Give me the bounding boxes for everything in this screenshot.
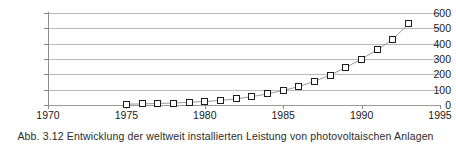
data-point-marker — [280, 87, 287, 94]
data-point-marker — [295, 83, 302, 90]
data-point-marker — [170, 100, 177, 107]
data-point-marker — [123, 101, 130, 108]
data-point-marker — [264, 90, 271, 97]
data-point-marker — [405, 20, 412, 27]
data-point-marker — [358, 56, 365, 63]
figure-caption: Abb. 3.12 Entwicklung der weltweit insta… — [0, 130, 451, 142]
data-point-marker — [201, 98, 208, 105]
data-point-marker — [311, 78, 318, 85]
data-point-marker — [139, 100, 146, 107]
data-point-marker — [217, 97, 224, 104]
data-point-marker — [233, 95, 240, 102]
series-line — [0, 0, 451, 128]
data-point-marker — [186, 99, 193, 106]
data-point-marker — [342, 64, 349, 71]
data-point-marker — [389, 36, 396, 43]
chart-area: 0100200300400500600 19701975198019851990… — [0, 0, 451, 128]
data-point-marker — [248, 93, 255, 100]
data-point-marker — [154, 100, 161, 107]
data-point-marker — [327, 72, 334, 79]
data-point-marker — [374, 46, 381, 53]
